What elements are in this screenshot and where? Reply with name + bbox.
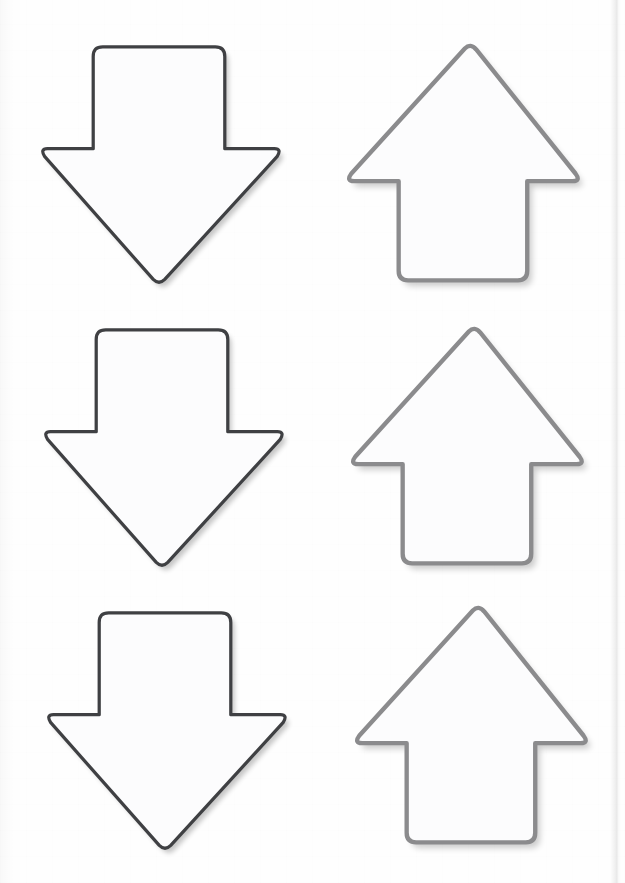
- arrow-up-icon-outline: [357, 608, 586, 843]
- arrow-up-icon: [341, 38, 583, 288]
- arrow-down-icon: [39, 324, 285, 574]
- page-edge-line: [610, 0, 621, 883]
- arrow-up-icon-outline: [349, 46, 578, 281]
- arrow-down-icon-outline: [49, 613, 285, 849]
- arrow-up-icon: [345, 321, 587, 571]
- arrow-up-icon: [349, 600, 591, 850]
- arrow-up-icon-outline: [353, 329, 582, 564]
- page-left-shade: [0, 0, 14, 883]
- worksheet-page: [0, 0, 625, 883]
- arrow-down-icon-outline: [46, 330, 282, 566]
- arrow-down-icon: [36, 41, 282, 291]
- arrow-down-icon-outline: [43, 47, 279, 283]
- arrow-down-icon: [42, 607, 288, 857]
